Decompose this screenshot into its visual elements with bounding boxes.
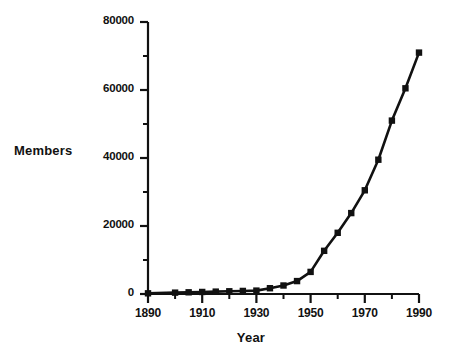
data-series-line — [148, 53, 419, 294]
data-point-marker — [267, 285, 273, 291]
data-point-marker — [145, 290, 151, 296]
data-point-marker — [213, 288, 219, 294]
data-point-marker — [172, 289, 178, 295]
data-point-marker — [199, 289, 205, 295]
plot-area — [0, 0, 449, 352]
data-point-marker — [253, 287, 259, 293]
data-point-marker — [416, 49, 422, 55]
series-members-line — [148, 53, 419, 294]
data-point-marker — [280, 282, 286, 288]
data-point-marker — [294, 278, 300, 284]
data-point-marker — [335, 230, 341, 236]
data-point-marker — [321, 248, 327, 254]
data-point-marker — [307, 269, 313, 275]
data-point-marker — [362, 187, 368, 193]
data-point-marker — [240, 288, 246, 294]
data-series-markers — [145, 49, 422, 296]
data-point-marker — [375, 157, 381, 163]
chart-figure: Members Year 020000400006000080000 18901… — [0, 0, 449, 352]
data-point-marker — [226, 288, 232, 294]
data-point-marker — [389, 117, 395, 123]
data-point-marker — [348, 210, 354, 216]
data-point-marker — [185, 289, 191, 295]
data-point-marker — [402, 85, 408, 91]
